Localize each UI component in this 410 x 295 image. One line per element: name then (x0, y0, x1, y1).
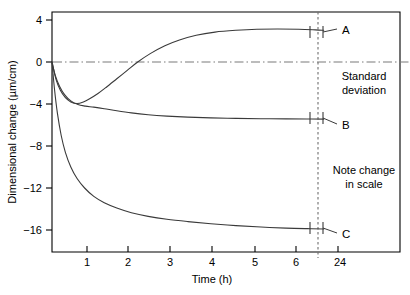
y-axis-ticks (46, 20, 52, 230)
x-tick-label-4: 4 (209, 256, 215, 268)
x-tick-label-2: 2 (125, 256, 131, 268)
x-tick-label-24: 24 (334, 256, 346, 268)
x-tick-label-6: 6 (293, 256, 299, 268)
series-c-marker: C (310, 222, 350, 240)
standard-deviation-line-2: deviation (342, 84, 386, 96)
standard-deviation-annotation: Standard deviation (342, 70, 387, 96)
y-axis-tick-labels: 4 0 −4 −8 −12 −16 (23, 14, 42, 236)
y-tick-label-4: 4 (36, 14, 42, 26)
y-tick-label-neg12: −12 (23, 182, 42, 194)
y-tick-label-neg4: −4 (29, 98, 42, 110)
leader-a (323, 29, 337, 32)
series-b-marker: B (310, 112, 350, 131)
chart-figure: 4 0 −4 −8 −12 −16 Dimensional change (µm… (0, 0, 410, 295)
series-a-marker: A (310, 24, 350, 38)
y-tick-label-neg8: −8 (29, 140, 42, 152)
note-change-line-2: in scale (345, 178, 382, 190)
x-axis-title: Time (h) (192, 273, 233, 285)
series-curve-a (52, 29, 324, 103)
leader-b (323, 118, 337, 124)
series-curve-b (52, 62, 324, 119)
x-tick-label-1: 1 (84, 256, 90, 268)
x-axis-tick-labels: 1 2 3 4 5 6 24 (84, 256, 346, 268)
x-tick-label-5: 5 (252, 256, 258, 268)
series-label-c: C (342, 228, 350, 240)
y-axis-title: Dimensional change (µm/cm) (6, 60, 18, 203)
standard-deviation-line-1: Standard (342, 70, 387, 82)
series-label-b: B (342, 119, 350, 131)
leader-c (323, 228, 337, 233)
data-curves (52, 29, 324, 229)
dimensional-change-vs-time-chart: 4 0 −4 −8 −12 −16 Dimensional change (µm… (0, 0, 410, 295)
x-tick-label-3: 3 (167, 256, 173, 268)
series-label-a: A (342, 24, 350, 36)
plot-frame (52, 12, 400, 252)
y-tick-label-0: 0 (36, 56, 42, 68)
note-change-line-1: Note change (333, 164, 395, 176)
y-tick-label-neg16: −16 (23, 224, 42, 236)
series-curve-c (52, 62, 324, 229)
x-axis-ticks (87, 246, 338, 252)
note-change-in-scale-annotation: Note change in scale (333, 164, 395, 190)
